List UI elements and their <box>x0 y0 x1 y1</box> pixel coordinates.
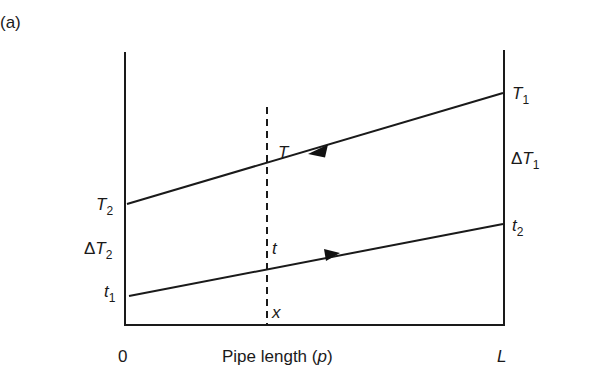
label-T1: T1 <box>512 84 529 107</box>
label-delta-T2: ΔT2 <box>84 239 113 262</box>
label-t2: t2 <box>512 216 524 239</box>
hot-flow-arrow-icon <box>308 145 328 158</box>
panel-label: (a) <box>0 13 21 32</box>
label-t1: t1 <box>104 282 116 305</box>
x-axis-start-label: 0 <box>118 347 127 366</box>
label-T-at-x: T <box>278 143 290 162</box>
x-axis-title: Pipe length (p) <box>222 347 333 366</box>
heat-exchanger-temperature-profile-diagram: (a) T2 ΔT2 t1 T1 ΔT1 t2 T t x 0 L Pipe l… <box>0 0 594 385</box>
label-x: x <box>271 303 281 322</box>
label-T2: T2 <box>96 195 113 218</box>
cold-fluid-temperature-line <box>129 224 503 296</box>
label-t-at-x: t <box>272 239 278 258</box>
x-axis-end-label: L <box>497 347 506 366</box>
hot-fluid-temperature-line <box>127 93 503 204</box>
label-delta-T1: ΔT1 <box>511 149 540 172</box>
